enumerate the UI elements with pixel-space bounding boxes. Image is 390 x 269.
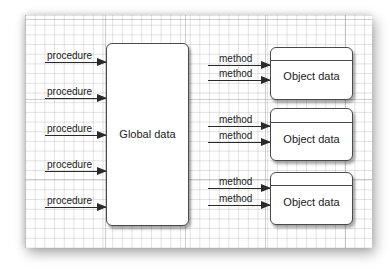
arrow-icon [208, 80, 270, 81]
global-data-box: Global data [106, 43, 189, 226]
arrow-icon [45, 207, 106, 208]
arrow-icon [45, 98, 106, 99]
global-data-label: Global data [107, 128, 188, 140]
procedure-label: procedure [47, 124, 92, 134]
arrow-icon [45, 171, 106, 172]
arrow-icon [208, 142, 270, 143]
arrow-icon [45, 135, 106, 136]
arrow-icon [45, 62, 106, 63]
method-label: method [219, 131, 252, 141]
procedure-label: procedure [47, 196, 92, 206]
method-label: method [219, 177, 252, 187]
procedure-label: procedure [47, 87, 92, 97]
object-data-box: Object data [270, 47, 353, 100]
arrow-icon [208, 65, 270, 66]
procedure-label: procedure [47, 51, 92, 61]
method-label: method [219, 69, 252, 79]
object-data-label: Object data [271, 133, 352, 145]
object-header-divider [271, 185, 352, 186]
object-data-label: Object data [271, 196, 352, 208]
arrow-icon [208, 188, 270, 189]
object-header-divider [271, 60, 352, 61]
object-data-box: Object data [270, 172, 353, 225]
object-data-label: Object data [271, 70, 352, 82]
method-label: method [219, 115, 252, 125]
arrow-icon [208, 205, 270, 206]
method-label: method [219, 194, 252, 204]
object-data-box: Object data [270, 108, 353, 161]
procedure-label: procedure [47, 160, 92, 170]
method-label: method [219, 54, 252, 64]
arrow-icon [208, 126, 270, 127]
object-header-divider [271, 122, 352, 123]
